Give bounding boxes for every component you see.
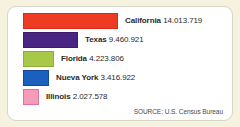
state-name-nueva-york: Nueva York	[56, 73, 98, 82]
state-value-california: 14.013.719	[163, 16, 202, 25]
chart-panel: California 14.013.719 Texas 9.460.921 Fl…	[7, 6, 233, 121]
bar-nueva-york	[23, 70, 49, 86]
state-value-florida: 4.223.806	[89, 54, 124, 63]
state-name-florida: Florida	[61, 54, 87, 63]
bar-california	[23, 13, 118, 29]
source-attribution: SOURCE: U.S. Census Bureau	[134, 108, 223, 115]
state-value-texas: 9.460.921	[109, 35, 144, 44]
bar-label-california: California 14.013.719	[125, 16, 202, 26]
state-name-texas: Texas	[85, 35, 107, 44]
bar-texas	[23, 32, 78, 48]
bar-label-illinois: Illinois 2.027.578	[46, 92, 107, 102]
bar-rows-container: California 14.013.719 Texas 9.460.921 Fl…	[8, 7, 234, 122]
bar-row-illinois: Illinois 2.027.578	[8, 88, 234, 105]
bar-row-florida: Florida 4.223.806	[8, 50, 234, 67]
bar-row-california: California 14.013.719	[8, 12, 234, 29]
bar-row-texas: Texas 9.460.921	[8, 31, 234, 48]
state-value-illinois: 2.027.578	[73, 92, 108, 101]
bar-florida	[23, 51, 54, 67]
bar-label-texas: Texas 9.460.921	[85, 35, 144, 45]
bar-label-florida: Florida 4.223.806	[61, 54, 124, 64]
bar-row-nueva-york: Nueva York 3.416.922	[8, 69, 234, 86]
state-name-illinois: Illinois	[46, 92, 71, 101]
bar-label-nueva-york: Nueva York 3.416.922	[56, 73, 135, 83]
state-name-california: California	[125, 16, 161, 25]
infographic-bar-chart: California 14.013.719 Texas 9.460.921 Fl…	[0, 0, 240, 127]
bar-illinois	[23, 89, 39, 105]
state-value-nueva-york: 3.416.922	[101, 73, 136, 82]
